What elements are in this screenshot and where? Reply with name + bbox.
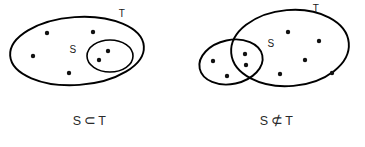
element-dot	[317, 39, 321, 43]
element-dot	[211, 59, 215, 63]
caption-left-operand: S	[260, 114, 272, 128]
subset-diagram: T S	[0, 0, 182, 105]
not-subset-caption: S⊄T	[187, 112, 365, 128]
set-s-outline	[87, 40, 133, 72]
element-dot	[67, 71, 71, 75]
element-dot	[31, 54, 35, 58]
element-dot	[286, 30, 290, 34]
not-subset-panel: T S S⊄T	[183, 0, 365, 147]
element-dot	[91, 30, 95, 34]
set-label-s: S	[70, 44, 77, 55]
set-label-t: T	[119, 8, 125, 19]
set-label-s: S	[268, 38, 275, 49]
set-t-outline	[8, 12, 146, 89]
not-subset-diagram: T S	[183, 0, 365, 105]
venn-diagram-figure: T S S⊂T T S S⊄T	[0, 0, 365, 147]
element-dot	[45, 31, 49, 35]
element-dot	[278, 72, 282, 76]
caption-left-operand: S	[73, 114, 85, 128]
subset-panel: T S S⊂T	[0, 0, 182, 147]
subset-of-icon: ⊂	[84, 113, 98, 128]
element-dot	[225, 74, 229, 78]
element-dot	[303, 58, 307, 62]
subset-caption: S⊂T	[0, 112, 182, 128]
element-dot	[330, 71, 334, 75]
element-dot	[244, 63, 248, 67]
element-dot	[106, 49, 110, 53]
caption-right-operand: T	[285, 114, 296, 128]
element-dot	[243, 52, 247, 56]
not-subset-of-icon: ⊄	[271, 113, 285, 128]
element-dot	[97, 58, 101, 62]
set-t-outline	[228, 5, 352, 91]
set-label-t: T	[313, 3, 319, 14]
caption-right-operand: T	[98, 114, 109, 128]
